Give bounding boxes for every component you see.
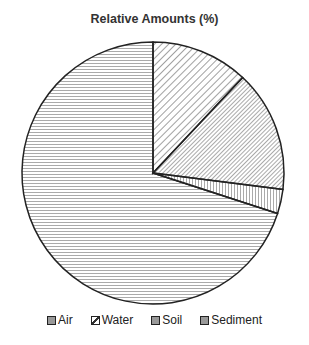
legend-label: Air	[58, 313, 73, 327]
legend-swatch-icon	[200, 316, 209, 325]
legend-item-sediment: Sediment	[200, 313, 262, 327]
legend-swatch-icon	[151, 316, 160, 325]
legend-label: Soil	[162, 313, 182, 327]
legend-label: Sediment	[211, 313, 262, 327]
pie-slices	[22, 42, 284, 304]
legend-item-air: Air	[47, 313, 73, 327]
legend-item-soil: Soil	[151, 313, 182, 327]
legend: Air Water Soil Sediment	[0, 313, 309, 327]
legend-label: Water	[102, 313, 134, 327]
legend-swatch-icon	[91, 316, 100, 325]
pie-chart	[0, 0, 309, 345]
legend-swatch-icon	[47, 316, 56, 325]
legend-item-water: Water	[91, 313, 134, 327]
